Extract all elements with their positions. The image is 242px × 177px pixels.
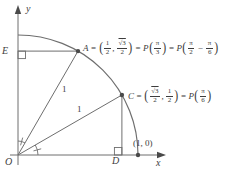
fraction-one-half: 1 2 (104, 40, 111, 57)
origin-label: O (5, 157, 12, 167)
fraction-pi-over-6: π 6 (200, 88, 207, 105)
point-C-label: C = ( √3 2 , 1 2 ) = P ( π 6 ) (128, 84, 212, 108)
fraction-one-half: 1 2 (166, 88, 173, 105)
unit-point-label: (1, 0) (133, 139, 153, 148)
open-paren: ( (99, 41, 103, 55)
open-paren: ( (182, 41, 186, 55)
point-unit-dot (136, 153, 140, 157)
open-paren: ( (194, 89, 198, 103)
P-function: P (143, 44, 149, 53)
point-A-name: A (83, 44, 89, 53)
equals-sign: = (136, 44, 141, 53)
open-paren: ( (144, 89, 148, 103)
equals-sign: = (169, 44, 174, 53)
fraction-sqrt3-over-2: √3 2 (150, 88, 160, 105)
close-paren: ) (214, 41, 218, 55)
point-A-label: A = ( 1 2 , √3 2 ) = P ( π 3 ) = P ( π 2… (83, 36, 219, 60)
close-paren: ) (208, 89, 212, 103)
point-D-label: D (112, 156, 119, 166)
equals-sign: = (91, 44, 96, 53)
fraction-pi-over-2: π 2 (188, 40, 195, 57)
point-C-name: C (128, 92, 134, 101)
radius-OC-length-label: 1 (77, 105, 82, 114)
open-paren: ( (149, 41, 153, 55)
P-function: P (189, 92, 195, 101)
fraction-sqrt3-over-2: √3 2 (117, 40, 127, 57)
comma: , (112, 44, 114, 53)
point-E-label: E (2, 46, 8, 56)
x-axis-label: x (156, 158, 160, 168)
comma: , (162, 92, 164, 101)
radius-OC (18, 95, 122, 155)
radius-OA (18, 51, 78, 155)
y-axis-label: y (26, 4, 30, 14)
radius-OA-length-label: 1 (62, 85, 67, 94)
minus-sign: − (198, 44, 203, 53)
close-paren: ) (162, 41, 166, 55)
equals-sign: = (181, 92, 186, 101)
point-A-dot (76, 49, 80, 53)
right-angle-marker-D (114, 148, 122, 156)
unit-circle-diagram: y x O E D (1, 0) 1 1 A = ( 1 2 , √3 2 ) … (0, 0, 242, 177)
point-C-dot (120, 93, 124, 97)
equals-sign: = (137, 92, 142, 101)
fraction-pi-over-6: π 6 (206, 40, 213, 57)
P-function: P (177, 44, 183, 53)
y-axis-arrowhead (15, 5, 21, 14)
right-angle-marker-E (18, 51, 26, 59)
close-paren: ) (129, 41, 133, 55)
fraction-pi-over-3: π 3 (154, 40, 161, 57)
close-paren: ) (174, 89, 178, 103)
